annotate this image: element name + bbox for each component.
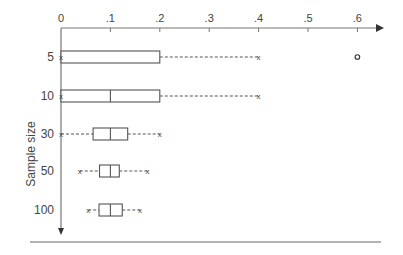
whisker-end-marker: x (257, 53, 261, 62)
whisker-end-marker: x (257, 92, 261, 101)
box-50: 50xx (41, 164, 150, 178)
whisker-end-marker: x (78, 167, 82, 176)
whisker-end-marker: x (145, 167, 149, 176)
axes: 0.1.2.3.4.5.6 (30, 12, 384, 242)
box (61, 51, 160, 63)
boxes: 5xx10xx30xx50xx100xx (34, 50, 360, 217)
whisker-end-marker: x (59, 53, 63, 62)
x-tick-label: .6 (353, 12, 362, 24)
y-axis-arrow-icon (58, 228, 64, 235)
x-tick-label: .4 (254, 12, 263, 24)
x-tick-label: 0 (58, 12, 64, 24)
y-category-label: 50 (41, 164, 55, 178)
x-tick-label: .5 (303, 12, 312, 24)
box-10: 10xx (41, 89, 261, 103)
whisker-end-marker: x (59, 130, 63, 139)
whisker-end-marker: x (59, 92, 63, 101)
box-100: 100xx (34, 203, 142, 217)
box-5: 5xx (47, 50, 359, 64)
y-category-label: 10 (41, 89, 55, 103)
whisker-end-marker: x (158, 130, 162, 139)
x-tick-label: .3 (205, 12, 214, 24)
whisker-end-marker: x (138, 206, 142, 215)
whisker-end-marker: x (86, 206, 90, 215)
y-axis-label: Sample size (24, 121, 38, 187)
x-tick-label: .2 (155, 12, 164, 24)
outlier-point (355, 55, 360, 60)
y-category-label: 30 (41, 127, 55, 141)
x-tick-label: .1 (106, 12, 115, 24)
y-category-label: 5 (47, 50, 54, 64)
boxplot-chart: 0.1.2.3.4.5.6 5xx10xx30xx50xx100xx Sampl… (0, 0, 403, 255)
box-30: 30xx (41, 127, 162, 141)
x-axis-arrow-icon (376, 24, 384, 32)
y-category-label: 100 (34, 203, 54, 217)
box (100, 165, 120, 177)
